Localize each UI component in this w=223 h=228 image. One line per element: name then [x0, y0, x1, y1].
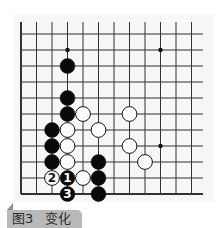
white-stone [76, 171, 91, 186]
white-stone [60, 123, 75, 138]
star-point [158, 144, 162, 148]
white-stone [138, 155, 153, 170]
black-stone-1: 1 [60, 171, 75, 186]
black-stone [45, 155, 60, 170]
white-stone-2: 2 [45, 171, 60, 186]
black-stone [60, 91, 75, 106]
white-stone [91, 123, 106, 138]
black-stone [45, 139, 60, 154]
white-stone [122, 107, 137, 122]
go-board: 132 [0, 0, 223, 228]
white-stone [60, 139, 75, 154]
black-stone [91, 187, 106, 202]
star-point [65, 48, 69, 52]
black-stone [45, 123, 60, 138]
move-number: 3 [63, 187, 71, 201]
white-stone [122, 139, 137, 154]
black-stone [91, 155, 106, 170]
black-stone-3: 3 [60, 187, 75, 202]
white-stone [76, 107, 91, 122]
star-point [158, 48, 162, 52]
caption-flap-decoration [7, 203, 13, 210]
move-number: 2 [48, 171, 56, 185]
figure-title: 变化 [45, 211, 71, 226]
white-stone [60, 155, 75, 170]
black-stone [60, 107, 75, 122]
black-stone [91, 171, 106, 186]
figure-caption: 图3变化 [12, 210, 71, 228]
figure-number: 图3 [12, 211, 33, 226]
move-number: 1 [63, 171, 71, 185]
black-stone [60, 59, 75, 74]
